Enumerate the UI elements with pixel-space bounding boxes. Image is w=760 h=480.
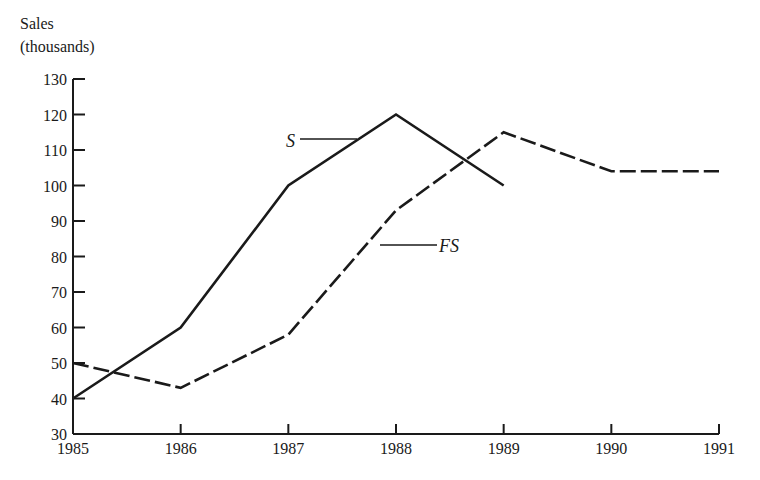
y-tick-label: 100 — [43, 178, 67, 195]
x-tick-label: 1990 — [595, 440, 627, 457]
series-fs-label: FS — [438, 236, 459, 256]
y-axis-ticks: 30405060708090100110120130 — [43, 71, 85, 443]
y-tick-label: 50 — [51, 355, 67, 372]
y-tick-label: 90 — [51, 213, 67, 230]
line-chart: 30405060708090100110120130 1985198619871… — [0, 0, 760, 480]
series-lines — [73, 115, 719, 399]
series-s-label: S — [286, 131, 295, 151]
y-tick-label: 130 — [43, 71, 67, 88]
x-tick-label: 1988 — [380, 440, 412, 457]
y-tick-label: 60 — [51, 320, 67, 337]
x-tick-label: 1985 — [57, 440, 89, 457]
x-tick-label: 1989 — [488, 440, 520, 457]
x-tick-label: 1991 — [703, 440, 735, 457]
series-fs-line — [73, 132, 719, 388]
y-tick-label: 70 — [51, 284, 67, 301]
x-tick-label: 1987 — [272, 440, 304, 457]
x-axis-ticks: 1985198619871988198919901991 — [57, 424, 735, 457]
series-s-line — [73, 115, 504, 399]
x-tick-label: 1986 — [165, 440, 197, 457]
y-tick-label: 110 — [44, 142, 67, 159]
axes — [73, 79, 719, 434]
y-tick-label: 120 — [43, 107, 67, 124]
y-tick-label: 80 — [51, 249, 67, 266]
y-tick-label: 40 — [51, 391, 67, 408]
